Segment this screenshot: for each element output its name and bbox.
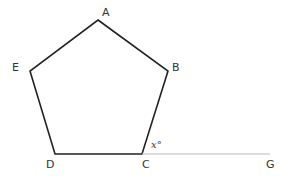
vertex-label-b: B [172,61,180,74]
vertex-label-e: E [12,61,19,74]
pentagon-diagram: A B C D E G x° [0,0,289,178]
point-label-g: G [266,158,275,171]
angle-label-x: x° [151,139,162,150]
vertex-label-d: D [46,158,54,171]
vertex-label-a: A [102,6,110,19]
pentagon-abcde [30,20,168,154]
vertex-label-c: C [142,158,150,171]
